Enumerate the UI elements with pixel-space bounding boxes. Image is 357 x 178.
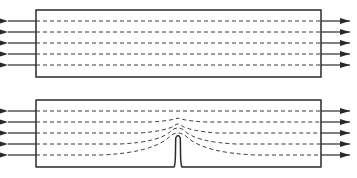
field-lines — [36, 21, 321, 65]
uncracked-plate — [8, 10, 350, 77]
right-arrows — [321, 111, 350, 155]
left-arrows — [8, 21, 36, 65]
left-arrows — [8, 111, 36, 155]
field-lines-deflected — [36, 111, 321, 155]
diagram-canvas — [0, 0, 357, 178]
right-arrows — [321, 21, 350, 65]
cracked-plate — [8, 100, 350, 167]
